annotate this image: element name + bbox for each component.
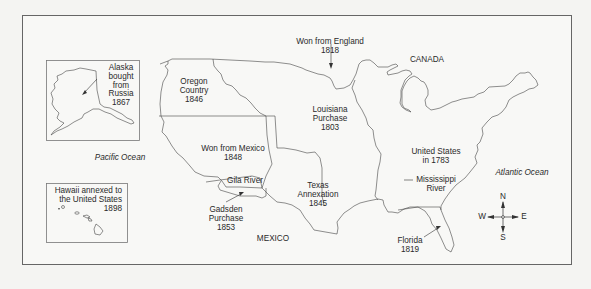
mississippi-river-label: Mississippi River bbox=[411, 176, 461, 194]
pacific-ocean-label: Pacific Ocean bbox=[90, 154, 150, 163]
england-label: Won from England 1818 bbox=[275, 38, 385, 56]
mexico-label: MEXICO bbox=[248, 235, 298, 244]
gila-river-label: Gila River bbox=[220, 177, 270, 186]
alaska-label: Alaska bought from Russia 1867 bbox=[104, 64, 138, 108]
compass-n-label: N bbox=[498, 193, 508, 202]
florida-label: Florida 1819 bbox=[395, 237, 425, 255]
compass-s-label: S bbox=[498, 234, 508, 243]
compass-w-label: W bbox=[477, 213, 487, 222]
gadsden-label: Gadsden Purchase 1853 bbox=[205, 206, 247, 232]
compass-e-label: E bbox=[519, 213, 529, 222]
oregon-label: Oregon Country 1846 bbox=[174, 78, 214, 104]
mexico-cession-label: Won from Mexico 1848 bbox=[191, 145, 275, 163]
hawaii-label: Hawaii annexed to the United States 1898 bbox=[52, 187, 122, 213]
canada-label: CANADA bbox=[402, 56, 452, 65]
us-1783-label: United States in 1783 bbox=[405, 148, 467, 166]
atlantic-ocean-label: Atlantic Ocean bbox=[487, 169, 557, 178]
louisiana-label: Louisiana Purchase 1803 bbox=[305, 106, 355, 132]
texas-label: Texas Annexation 1845 bbox=[293, 182, 343, 208]
